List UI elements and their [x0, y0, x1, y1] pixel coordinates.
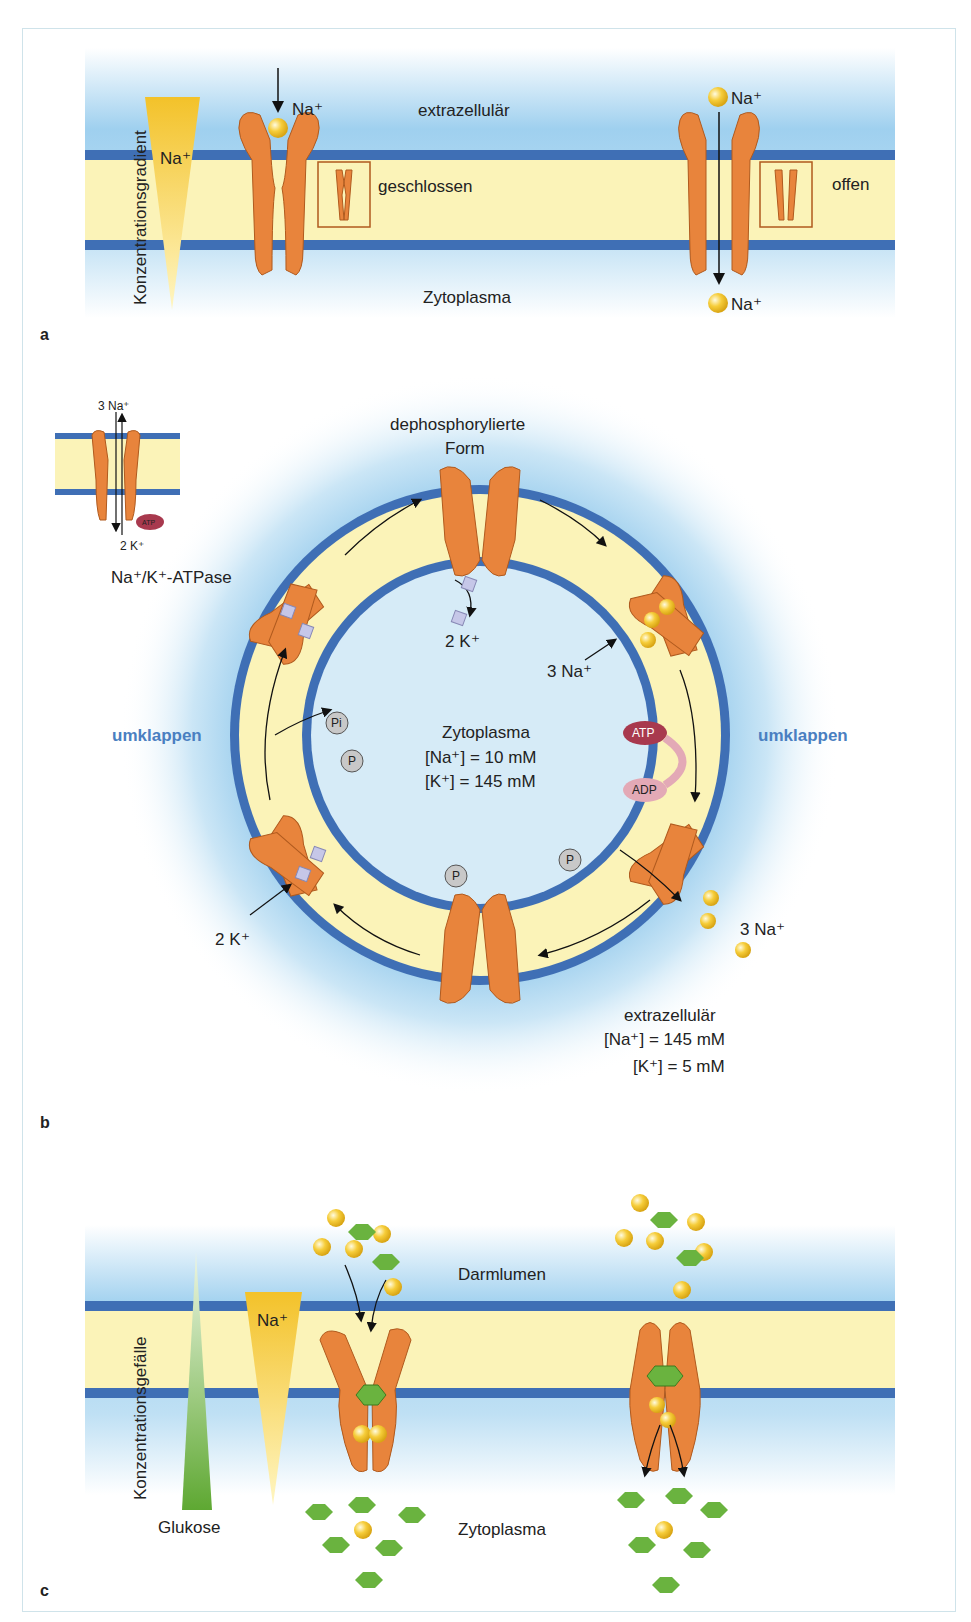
flip-right-label: umklappen [758, 726, 848, 745]
extracellular-potassium-concentration: [K⁺] = 5 mM [633, 1057, 725, 1076]
phosphate-label: P [348, 754, 356, 768]
gradient-ion-label: Na⁺ [257, 1311, 288, 1330]
phosphate-label: P [566, 853, 574, 867]
sodium-ion [268, 118, 288, 138]
extracellular-label: extrazellulär [418, 101, 510, 120]
pump-inset: ATP 3 Na⁺ 2 K⁺ [55, 399, 180, 553]
cytoplasm-molecules [305, 1488, 728, 1593]
open-ion-bottom-label: Na⁺ [731, 295, 762, 314]
cytoplasm-potassium-concentration: [K⁺] = 145 mM [425, 772, 536, 791]
inset-sodium-label: 3 Na⁺ [98, 399, 129, 413]
lumen-label: Darmlumen [458, 1265, 546, 1284]
sodium-ion [353, 1425, 371, 1443]
concentration-gradient-label: Konzentrationsgefälle [131, 1336, 150, 1500]
extracellular-title: extrazellulär [624, 1006, 716, 1025]
dephosphorylated-label-line2: Form [445, 439, 485, 458]
panel-letter-a: a [40, 326, 49, 343]
cytoplasm-label: Zytoplasma [458, 1520, 546, 1539]
membrane-core [85, 1311, 895, 1388]
panel-letter-b: b [40, 1114, 50, 1131]
closed-ion-label: Na⁺ [292, 100, 323, 119]
sodium-in-label: 3 Na⁺ [547, 662, 592, 681]
extracellular-sodium-concentration: [Na⁺] = 145 mM [604, 1030, 725, 1049]
potassium-in-label: 2 K⁺ [445, 632, 480, 651]
potassium-left-label: 2 K⁺ [215, 930, 250, 949]
glucose-label: Glukose [158, 1518, 220, 1537]
sodium-ion [649, 1397, 665, 1413]
cytoplasm-sodium-concentration: [Na⁺] = 10 mM [425, 748, 537, 767]
concentration-gradient-label: Konzentrationsgradient [131, 130, 150, 305]
sodium-ion [655, 1521, 673, 1539]
membrane-outer-layer [85, 150, 895, 160]
flip-left-label: umklappen [112, 726, 202, 745]
inset-atp-label: ATP [142, 519, 155, 526]
cytoplasm-label: Zytoplasma [423, 288, 511, 307]
phosphate-free-label: Pi [331, 716, 342, 730]
membrane-outer-layer [85, 1301, 895, 1311]
panel-letter-c: c [40, 1582, 49, 1599]
pump-name-label: Na⁺/K⁺-ATPase [111, 568, 232, 587]
inset-potassium-label: 2 K⁺ [120, 539, 144, 553]
dephosphorylated-label-line1: dephosphorylierte [390, 415, 525, 434]
gradient-ion-label: Na⁺ [160, 149, 191, 168]
panel-c: Konzentrationsgefälle Na⁺ Glukose Darmlu… [40, 1194, 895, 1599]
glucose-molecule [647, 1366, 683, 1386]
membrane-transport-diagram: Konzentrationsgradient Na⁺ Na⁺ geschloss… [0, 0, 971, 1622]
sodium-ion [354, 1521, 372, 1539]
atp-label: ATP [632, 726, 654, 740]
adp-label: ADP [632, 783, 657, 797]
membrane-core [85, 160, 895, 240]
closed-label: geschlossen [378, 177, 473, 196]
membrane-inner-layer [85, 240, 895, 250]
sodium-ion [708, 87, 728, 107]
membrane-inner-layer [85, 1388, 895, 1398]
panel-a: Konzentrationsgradient Na⁺ Na⁺ geschloss… [40, 48, 895, 343]
open-label: offen [832, 175, 870, 194]
sodium-ion [660, 1412, 676, 1428]
sodium-ion [708, 293, 728, 313]
cytoplasm-title: Zytoplasma [442, 723, 530, 742]
panel-b: ATP 3 Na⁺ 2 K⁺ Na⁺/K⁺-ATPase dephosphory… [40, 375, 848, 1131]
sodium-out-label: 3 Na⁺ [740, 920, 785, 939]
sodium-ion [369, 1425, 387, 1443]
phosphate-label: P [452, 869, 460, 883]
open-ion-top-label: Na⁺ [731, 89, 762, 108]
